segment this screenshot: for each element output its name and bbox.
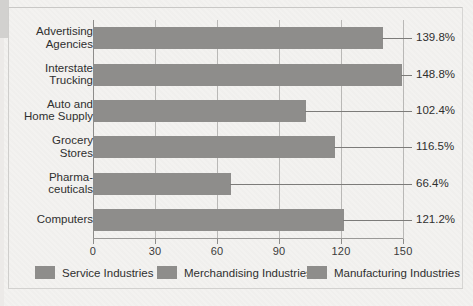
legend-label: Manufacturing Industries [334,267,460,279]
value-leader-line [334,147,412,148]
x-axis-tick [217,239,218,244]
x-axis-tick [341,239,342,244]
x-axis-tick [279,239,280,244]
x-axis-tick [93,239,94,244]
x-axis-tick-label: 120 [332,245,351,257]
bar-value-label: 66.4% [416,177,449,189]
legend-label: Service Industries [62,267,153,279]
gridline [341,20,342,239]
bar-value-label: 116.5% [416,140,454,152]
legend-item[interactable]: Merchandising Industries [157,266,312,279]
x-axis-tick-label: 60 [211,245,224,257]
category-label: Computers [37,213,93,226]
value-leader-line [230,184,412,185]
y-axis-line [93,20,94,239]
category-label: Auto and Home Supply [24,98,93,123]
category-label: Pharma- ceuticals [48,171,93,196]
x-axis-tick-label: 30 [149,245,162,257]
legend-label: Merchandising Industries [184,267,312,279]
chart-figure: 0306090120150Advertising Agencies139.8%I… [0,0,473,306]
gridline [403,20,404,239]
chart-legend: Service IndustriesMerchandising Industri… [0,266,473,288]
bar-value-label: 121.2% [416,213,455,225]
bar [94,209,344,231]
plot-area: 0306090120150Advertising Agencies139.8%I… [0,0,473,306]
bar [94,173,231,195]
bar-value-label: 148.8% [416,68,455,80]
bar [94,136,335,158]
value-leader-line [382,38,412,39]
legend-item[interactable]: Manufacturing Industries [307,266,460,279]
bar [94,64,402,86]
x-axis-tick-label: 150 [394,245,413,257]
bar [94,27,383,49]
x-axis-tick [155,239,156,244]
bar-value-label: 139.8% [416,31,455,43]
x-axis-tick [403,239,404,244]
gridline [217,20,218,239]
gridline [279,20,280,239]
bar-value-label: 102.4% [416,104,455,116]
value-leader-line [343,220,412,221]
value-leader-line [401,75,412,76]
legend-swatch-icon [307,266,327,279]
gridline [155,20,156,239]
x-axis-tick-label: 0 [90,245,96,257]
category-label: Grocery Stores [52,134,93,159]
category-label: Interstate Trucking [45,62,93,87]
legend-swatch-icon [157,266,177,279]
x-axis-line [93,238,403,239]
value-leader-line [305,111,412,112]
x-axis-tick-label: 90 [273,245,286,257]
legend-swatch-icon [35,266,55,279]
legend-item[interactable]: Service Industries [35,266,153,279]
bar [94,100,306,122]
category-label: Advertising Agencies [36,25,93,50]
